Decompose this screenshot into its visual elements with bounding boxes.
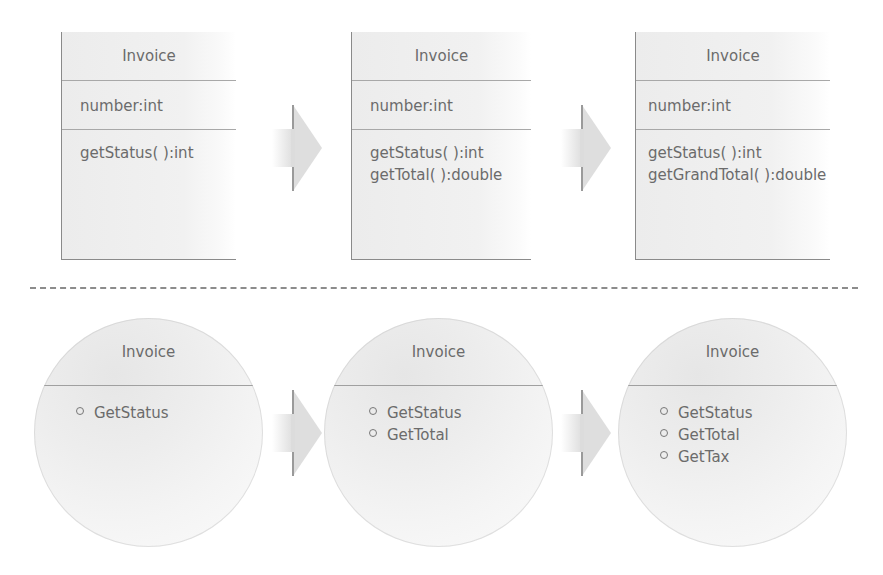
- method: getStatus( ):int: [370, 142, 531, 164]
- method: getGrandTotal( ):double: [648, 164, 830, 186]
- method: getTotal( ):double: [370, 164, 531, 186]
- transition-arrow-top-2: [561, 105, 613, 191]
- transition-arrow-bottom-1: [272, 390, 324, 476]
- arrow-head: [582, 105, 611, 191]
- interface-item: GetStatus: [369, 402, 462, 424]
- interface-bullet-icon: [660, 451, 668, 459]
- uml-class-box-2: Invoice number:int getStatus( ):int getT…: [351, 32, 531, 260]
- attribute: number:int: [648, 81, 830, 131]
- uml-class-box-1: Invoice number:int getStatus( ):int: [61, 32, 236, 260]
- class-attributes: number:int: [62, 81, 236, 130]
- arrow-head: [293, 105, 322, 191]
- class-methods: getStatus( ):int: [62, 130, 236, 164]
- interface-item: GetTax: [660, 446, 753, 468]
- arrow-head: [582, 390, 611, 476]
- class-name: Invoice: [62, 32, 236, 81]
- attribute: number:int: [80, 81, 236, 131]
- interface-label: GetTax: [678, 446, 729, 468]
- interface-label: GetStatus: [94, 402, 169, 424]
- component-name: Invoice: [34, 343, 263, 361]
- component-circle-1: Invoice GetStatus: [34, 318, 263, 547]
- dashed-separator: [30, 287, 858, 289]
- class-methods: getStatus( ):int getTotal( ):double: [352, 130, 531, 186]
- interface-label: GetTotal: [678, 424, 740, 446]
- transition-arrow-bottom-2: [561, 390, 613, 476]
- interface-bullet-icon: [369, 429, 377, 437]
- interface-bullet-icon: [76, 407, 84, 415]
- attribute: number:int: [370, 81, 531, 131]
- class-name: Invoice: [636, 32, 830, 81]
- interface-label: GetStatus: [678, 402, 753, 424]
- class-attributes: number:int: [352, 81, 531, 130]
- class-name: Invoice: [352, 32, 531, 81]
- component-separator: [626, 385, 847, 386]
- class-methods: getStatus( ):int getGrandTotal( ):double: [636, 130, 830, 186]
- interface-list: GetStatus GetTotal GetTax: [660, 402, 753, 468]
- interface-item: GetStatus: [660, 402, 753, 424]
- transition-arrow-top-1: [272, 105, 324, 191]
- arrow-bar-gap: [580, 414, 584, 452]
- interface-item: GetTotal: [660, 424, 753, 446]
- interface-list: GetStatus: [76, 402, 169, 424]
- component-separator: [332, 385, 553, 386]
- interface-item: GetTotal: [369, 424, 462, 446]
- component-separator: [42, 385, 263, 386]
- interface-bullet-icon: [369, 407, 377, 415]
- interface-bullet-icon: [660, 429, 668, 437]
- arrow-bar-gap: [291, 414, 295, 452]
- interface-list: GetStatus GetTotal: [369, 402, 462, 446]
- component-name: Invoice: [618, 343, 847, 361]
- arrow-bar-gap: [291, 129, 295, 167]
- interface-label: GetTotal: [387, 424, 449, 446]
- uml-class-box-3: Invoice number:int getStatus( ):int getG…: [635, 32, 830, 260]
- arrow-head: [293, 390, 322, 476]
- component-circle-2: Invoice GetStatus GetTotal: [324, 318, 553, 547]
- class-attributes: number:int: [636, 81, 830, 130]
- component-name: Invoice: [324, 343, 553, 361]
- interface-bullet-icon: [660, 407, 668, 415]
- interface-label: GetStatus: [387, 402, 462, 424]
- method: getStatus( ):int: [648, 142, 830, 164]
- interface-item: GetStatus: [76, 402, 169, 424]
- component-circle-3: Invoice GetStatus GetTotal GetTax: [618, 318, 847, 547]
- arrow-bar-gap: [580, 129, 584, 167]
- method: getStatus( ):int: [80, 142, 236, 164]
